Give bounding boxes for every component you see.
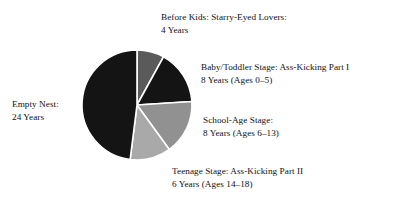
pie-label-baby-toddler-line2: 8 Years (Ages 0–5) [201, 74, 349, 87]
pie-label-baby-toddler: Baby/Toddler Stage: Ass-Kicking Part I 8… [201, 61, 349, 87]
pie-label-school-age: School-Age Stage: 8 Years (Ages 6–13) [203, 114, 279, 140]
pie-label-before-kids-line2: 4 Years [161, 24, 287, 37]
pie-label-before-kids-line1: Before Kids: Starry-Eyed Lovers: [161, 11, 287, 24]
pie-label-school-age-line1: School-Age Stage: [203, 114, 279, 127]
pie-label-empty-nest-line1: Empty Nest: [12, 98, 59, 111]
pie-chart-figure: Before Kids: Starry-Eyed Lovers: 4 Years… [0, 0, 399, 201]
pie-label-baby-toddler-line1: Baby/Toddler Stage: Ass-Kicking Part I [201, 61, 349, 74]
pie-label-empty-nest: Empty Nest: 24 Years [12, 98, 59, 124]
pie-label-teenage-line2: 6 Years (Ages 14–18) [172, 178, 303, 191]
pie-label-school-age-line2: 8 Years (Ages 6–13) [203, 127, 279, 140]
pie-label-before-kids: Before Kids: Starry-Eyed Lovers: 4 Years [161, 11, 287, 37]
pie-slices [82, 50, 192, 160]
pie-label-empty-nest-line2: 24 Years [12, 111, 59, 124]
pie-label-teenage: Teenage Stage: Ass-Kicking Part II 6 Yea… [172, 165, 303, 191]
pie-label-teenage-line1: Teenage Stage: Ass-Kicking Part II [172, 165, 303, 178]
pie-slice-empty-nest [82, 50, 137, 160]
